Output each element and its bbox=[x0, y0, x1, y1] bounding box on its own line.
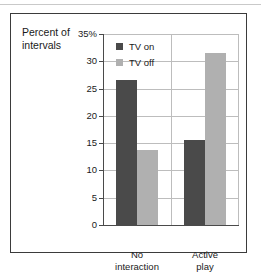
plot-right-edge-gridline bbox=[238, 34, 239, 225]
y-tick-mark-0 bbox=[99, 225, 103, 226]
x-axis-category-label-no-interaction: No interaction bbox=[103, 249, 171, 272]
y-tick-label-10: 10 bbox=[86, 166, 97, 176]
y-tick-label-5: 5 bbox=[92, 193, 97, 203]
page-top-rule bbox=[0, 4, 261, 5]
legend-swatch-icon-tv-off bbox=[116, 59, 123, 66]
y-tick-label-30: 30 bbox=[86, 57, 97, 67]
bar-active-play-tv-off[interactable] bbox=[205, 53, 226, 225]
legend-swatch-icon-tv-on bbox=[116, 43, 123, 50]
legend-label-tv-on: TV on bbox=[129, 42, 154, 52]
y-tick-label-25: 25 bbox=[86, 84, 97, 94]
group-separator-gridline bbox=[171, 34, 172, 225]
y-tick-label-0: 0 bbox=[92, 220, 97, 230]
plot-area: 35%302520151050 TV on TV off No interact… bbox=[103, 34, 239, 225]
y-tick-label-15: 15 bbox=[86, 138, 97, 148]
bar-no-interaction-tv-off[interactable] bbox=[137, 150, 158, 225]
legend-entry-tv-on[interactable]: TV on bbox=[116, 40, 154, 53]
figure-frame: Percent of intervals 35%302520151050 TV … bbox=[10, 13, 247, 253]
chart-legend: TV on TV off bbox=[116, 40, 154, 72]
bar-no-interaction-tv-on[interactable] bbox=[116, 80, 137, 225]
y-axis-line bbox=[103, 34, 104, 225]
x-axis-category-label-active-play: Active play bbox=[171, 249, 239, 272]
legend-entry-tv-off[interactable]: TV off bbox=[116, 56, 154, 69]
legend-label-tv-off: TV off bbox=[129, 58, 154, 68]
y-tick-label-35: 35% bbox=[78, 29, 97, 39]
y-tick-label-20: 20 bbox=[86, 111, 97, 121]
bar-active-play-tv-on[interactable] bbox=[184, 140, 205, 225]
gridline-y-0 bbox=[103, 225, 239, 226]
